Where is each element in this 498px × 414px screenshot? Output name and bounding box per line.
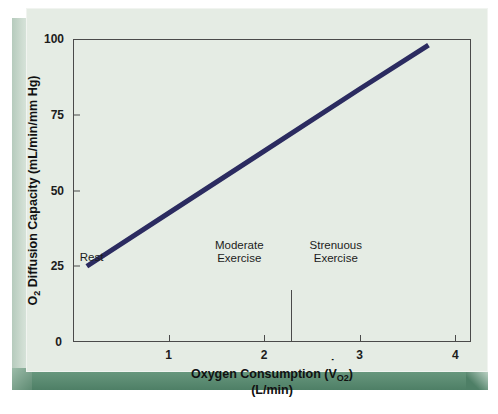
x-axis-title-sub-2: 2 — [344, 373, 349, 383]
y-tick-mark — [73, 266, 80, 267]
zone-label-line: Exercise — [310, 252, 362, 265]
y-tick-label: 50 — [51, 185, 64, 197]
y-tick-mark — [73, 114, 80, 115]
x-tick-mark — [264, 335, 265, 342]
zone-label-line: Strenuous — [310, 239, 362, 252]
x-tick-mark — [360, 335, 361, 342]
zone-label-rest: Rest — [80, 251, 104, 264]
x-tick-label: 3 — [356, 349, 363, 361]
x-tick-mark — [169, 335, 170, 342]
x-axis-title-line2: (L/min) — [73, 382, 471, 398]
figure-container: O2 Diffusion Capacity (mL/min/mm Hg) 255… — [0, 0, 498, 414]
zone-label-strenuous-exercise: StrenuousExercise — [310, 239, 362, 265]
y-axis-tick-labels: 255075100 — [28, 39, 64, 342]
data-series-line — [87, 45, 429, 266]
x-axis-title-post: ) — [349, 367, 353, 381]
x-axis-tick-labels: 1234 — [73, 342, 471, 368]
data-line-svg — [73, 39, 471, 342]
zone-label-line: Moderate — [215, 239, 264, 252]
zone-label-moderate-exercise: ModerateExercise — [215, 239, 264, 265]
x-axis-title: Oxygen Consumption (VO2) (L/min) — [73, 366, 471, 399]
x-tick-label: 2 — [261, 349, 268, 361]
plot-area: RestModerateExerciseStrenuousExercise — [73, 39, 471, 342]
zone-label-line: Exercise — [215, 252, 264, 265]
x-tick-label: 4 — [452, 349, 459, 361]
x-tick-mark — [455, 335, 456, 342]
x-tick-label: 1 — [165, 349, 172, 361]
x-axis-title-sub-o: O — [337, 373, 344, 383]
v-dot-symbol: V — [328, 366, 336, 382]
y-tick-label: 25 — [51, 260, 64, 272]
moderate-strenuous-divider — [291, 290, 292, 342]
y-tick-mark — [73, 190, 80, 191]
y-tick-label: 75 — [51, 109, 64, 121]
axis-origin-label: 0 — [40, 336, 62, 348]
y-tick-label: 100 — [44, 33, 64, 45]
x-axis-title-pre: Oxygen Consumption ( — [191, 367, 329, 381]
x-axis-title-line1: Oxygen Consumption (VO2) — [73, 366, 471, 382]
